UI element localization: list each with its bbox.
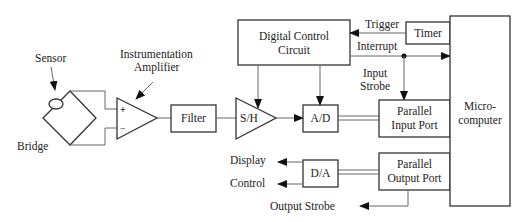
amp-plus: + — [120, 104, 126, 115]
sensor-label: Sensor — [35, 52, 66, 64]
dcc-label-2: Circuit — [278, 44, 311, 56]
filter-label: Filter — [181, 112, 206, 124]
pop-label-1: Parallel — [397, 158, 432, 170]
pip-label-2: Input Port — [391, 119, 438, 132]
wire-output-strobe — [360, 190, 408, 206]
pop-label-2: Output Port — [388, 172, 443, 185]
da-label: D/A — [311, 167, 332, 179]
amp-minus: − — [120, 123, 126, 134]
bridge-label: Bridge — [17, 140, 48, 153]
sh-label: S/H — [240, 112, 258, 124]
control-label: Control — [230, 177, 265, 189]
amp-pointer-arrow — [136, 82, 153, 99]
amp-label-2: Amplifier — [134, 61, 180, 74]
output-strobe-label: Output Strobe — [270, 200, 335, 213]
micro-label-1: Micro- — [464, 100, 496, 112]
digital-control-circuit-block — [238, 20, 350, 65]
interrupt-label: Interrupt — [357, 40, 398, 53]
block-diagram: Sensor Bridge Instrumentation Amplifier … — [0, 0, 529, 222]
amp-label-1: Instrumentation — [120, 48, 193, 60]
sensor-arrow — [51, 67, 55, 90]
input-strobe-label-2: Strobe — [360, 80, 390, 92]
ad-label: A/D — [311, 112, 331, 124]
dcc-label-1: Digital Control — [259, 30, 329, 43]
micro-label-2: computer — [458, 114, 502, 127]
sensor-element-icon — [49, 99, 63, 109]
bridge-diamond — [43, 91, 96, 145]
input-strobe-label-1: Input — [363, 67, 388, 80]
display-label: Display — [230, 154, 266, 167]
timer-label: Timer — [414, 27, 442, 39]
pip-label-1: Parallel — [397, 105, 432, 117]
trigger-label: Trigger — [365, 18, 399, 31]
